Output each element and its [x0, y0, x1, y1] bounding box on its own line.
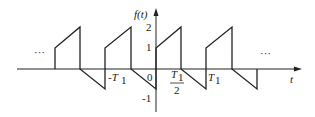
y-tick-1: 1 — [146, 41, 152, 53]
svg-text:1: 1 — [121, 74, 127, 86]
svg-text:1: 1 — [178, 71, 184, 83]
svg-text:2: 2 — [174, 84, 180, 96]
ellipsis-left: ··· — [34, 46, 45, 58]
f-axis-arrow-icon — [154, 8, 159, 16]
t-axis-arrow-icon — [294, 67, 302, 72]
x-tick-T1: T 1 — [208, 71, 221, 86]
svg-text:-T: -T — [108, 71, 119, 83]
x-axis-label: t — [290, 73, 294, 85]
waveform-diagram: 2 1 -1 f(t) t 0 -T 1 T 1 2 T 1 ··· ··· — [0, 0, 315, 117]
y-tick-neg1: -1 — [142, 92, 151, 104]
svg-text:1: 1 — [215, 74, 221, 86]
x-tick-neg-T1: -T 1 — [108, 71, 127, 86]
svg-text:T: T — [208, 71, 215, 83]
ellipsis-right: ··· — [260, 47, 271, 59]
x-tick-origin: 0 — [147, 71, 153, 83]
y-axis-label: f(t) — [134, 8, 148, 21]
x-tick-half-T1: T 1 2 — [170, 68, 184, 96]
svg-text:T: T — [171, 68, 178, 80]
y-tick-2: 2 — [146, 21, 152, 33]
